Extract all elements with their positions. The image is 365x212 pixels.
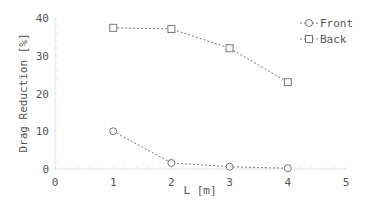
y-tick-label: 0: [42, 163, 49, 176]
series-line-back: [113, 28, 288, 82]
legend-circle-icon: [306, 20, 313, 27]
x-tick-label: 4: [284, 176, 291, 189]
x-tick-label: 2: [168, 176, 175, 189]
legend: FrontBack: [300, 17, 353, 46]
y-tick-label: 40: [36, 12, 49, 25]
x-axis-label: L [m]: [183, 184, 216, 197]
data-point-front: [226, 163, 233, 170]
legend-label-front: Front: [320, 17, 353, 30]
data-point-front: [284, 165, 291, 172]
data-point-back: [284, 79, 291, 86]
y-tick-label: 20: [36, 88, 49, 101]
axes: 012345010203040: [36, 12, 350, 189]
x-tick-label: 1: [110, 176, 117, 189]
plot-area: [110, 24, 292, 171]
y-tick-label: 10: [36, 125, 49, 138]
legend-label-back: Back: [320, 33, 347, 46]
x-tick-label: 5: [343, 176, 350, 189]
series-line-front: [113, 131, 288, 168]
data-point-front: [110, 128, 117, 135]
legend-square-icon: [306, 36, 313, 43]
data-point-back: [226, 45, 233, 52]
data-point-back: [168, 25, 175, 32]
y-tick-label: 30: [36, 50, 49, 63]
x-tick-label: 0: [52, 176, 59, 189]
x-tick-label: 3: [226, 176, 233, 189]
y-axis-label: Drag Reduction [%]: [17, 33, 30, 152]
data-point-back: [110, 24, 117, 31]
drag-reduction-chart: 012345010203040 L [m] Drag Reduction [%]…: [0, 0, 365, 212]
data-point-front: [168, 159, 175, 166]
